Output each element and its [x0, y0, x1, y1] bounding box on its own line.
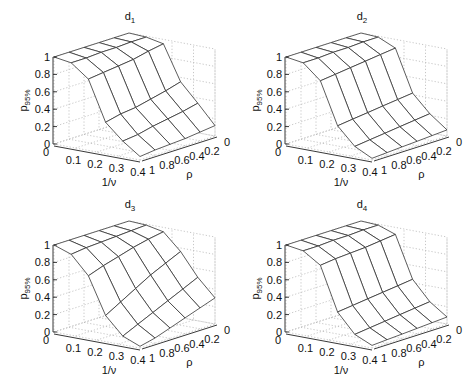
- x-axis-label: 1/ν: [334, 364, 349, 376]
- svg-text:0.4: 0.4: [267, 291, 282, 303]
- svg-text:0.2: 0.2: [436, 333, 451, 345]
- subplot-title: d2: [357, 10, 368, 25]
- z-axis-label: p95%: [249, 277, 264, 299]
- svg-text:0.2: 0.2: [319, 158, 334, 170]
- svg-text:0.2: 0.2: [267, 309, 282, 321]
- svg-text:0.8: 0.8: [391, 347, 406, 359]
- z-axis-label: p95%: [249, 89, 264, 111]
- svg-text:0.6: 0.6: [35, 86, 50, 98]
- svg-text:0: 0: [275, 334, 281, 346]
- y-axis-label: ρ: [418, 168, 424, 180]
- svg-text:0: 0: [275, 146, 281, 158]
- z-axis-label: p95%: [17, 89, 32, 111]
- surface-plot-d4: 00.20.40.60.8100.10.20.30.410.80.60.40.2…: [232, 188, 464, 376]
- svg-text:0.4: 0.4: [130, 166, 145, 178]
- svg-text:p95%: p95%: [249, 277, 264, 299]
- svg-text:0.1: 0.1: [66, 154, 81, 166]
- svg-text:1: 1: [44, 239, 50, 251]
- svg-text:0.3: 0.3: [109, 162, 124, 174]
- svg-text:0: 0: [224, 136, 230, 148]
- svg-text:0.8: 0.8: [35, 256, 50, 268]
- svg-text:0.8: 0.8: [35, 68, 50, 80]
- surface-mesh: [54, 33, 215, 157]
- svg-text:0.2: 0.2: [267, 121, 282, 133]
- svg-text:1: 1: [149, 352, 155, 364]
- svg-text:0.4: 0.4: [35, 291, 50, 303]
- svg-text:1: 1: [276, 51, 282, 63]
- svg-text:1: 1: [276, 239, 282, 251]
- subplot-d2: 00.20.40.60.8100.10.20.30.410.80.60.40.2…: [232, 0, 464, 188]
- svg-text:0.4: 0.4: [189, 150, 204, 162]
- svg-text:p95%: p95%: [17, 89, 32, 111]
- y-axis-label: ρ: [186, 168, 192, 180]
- z-axis-label: p95%: [17, 277, 32, 299]
- x-axis-label: 1/ν: [334, 176, 349, 188]
- svg-text:p95%: p95%: [249, 89, 264, 111]
- svg-text:0.2: 0.2: [319, 346, 334, 358]
- svg-text:0.2: 0.2: [35, 309, 50, 321]
- svg-text:p95%: p95%: [17, 277, 32, 299]
- subplot-title: d3: [125, 198, 136, 213]
- x-tick-labels: 00.10.20.30.4: [43, 146, 146, 178]
- surface-mesh: [286, 221, 447, 345]
- svg-text:0.3: 0.3: [109, 350, 124, 362]
- svg-text:0.1: 0.1: [298, 342, 313, 354]
- svg-text:0.8: 0.8: [159, 347, 174, 359]
- svg-text:0.2: 0.2: [436, 145, 451, 157]
- subplot-title: d1: [125, 10, 136, 25]
- svg-text:0.2: 0.2: [87, 158, 102, 170]
- svg-text:0.4: 0.4: [421, 338, 436, 350]
- svg-text:0.4: 0.4: [362, 354, 377, 366]
- subplot-d4: 00.20.40.60.8100.10.20.30.410.80.60.40.2…: [232, 188, 464, 376]
- svg-text:0.4: 0.4: [421, 150, 436, 162]
- subplot-d1: 00.20.40.60.8100.10.20.30.410.80.60.40.2…: [0, 0, 232, 188]
- svg-text:0.2: 0.2: [204, 333, 219, 345]
- surface-plot-d3: 00.20.40.60.8100.10.20.30.410.80.60.40.2…: [0, 188, 232, 376]
- svg-text:0.6: 0.6: [406, 154, 421, 166]
- svg-text:0: 0: [43, 334, 49, 346]
- svg-text:0.6: 0.6: [174, 154, 189, 166]
- svg-text:1: 1: [381, 352, 387, 364]
- svg-text:0: 0: [456, 324, 462, 336]
- surface-plot-d2: 00.20.40.60.8100.10.20.30.410.80.60.40.2…: [232, 0, 464, 188]
- svg-text:0.6: 0.6: [406, 342, 421, 354]
- y-axis-label: ρ: [186, 356, 192, 368]
- svg-text:0.8: 0.8: [391, 159, 406, 171]
- subplot-title: d4: [357, 198, 368, 213]
- svg-text:0.8: 0.8: [267, 256, 282, 268]
- svg-text:0.6: 0.6: [267, 274, 282, 286]
- subplot-d3: 00.20.40.60.8100.10.20.30.410.80.60.40.2…: [0, 188, 232, 376]
- svg-text:0.8: 0.8: [267, 68, 282, 80]
- surface-plot-d1: 00.20.40.60.8100.10.20.30.410.80.60.40.2…: [0, 0, 232, 188]
- svg-text:1: 1: [149, 164, 155, 176]
- svg-text:0.4: 0.4: [189, 338, 204, 350]
- svg-text:0.6: 0.6: [267, 86, 282, 98]
- svg-text:0.2: 0.2: [87, 346, 102, 358]
- svg-text:0.2: 0.2: [35, 121, 50, 133]
- x-axis-label: 1/ν: [102, 364, 117, 376]
- surface-mesh: [54, 221, 215, 346]
- svg-text:0.3: 0.3: [341, 162, 356, 174]
- svg-text:0.4: 0.4: [130, 354, 145, 366]
- x-axis-label: 1/ν: [102, 176, 117, 188]
- surface-mesh: [286, 33, 447, 158]
- svg-text:0: 0: [224, 324, 230, 336]
- svg-text:0: 0: [43, 146, 49, 158]
- svg-text:1: 1: [44, 51, 50, 63]
- svg-text:0.4: 0.4: [35, 103, 50, 115]
- svg-text:0.1: 0.1: [66, 342, 81, 354]
- svg-text:0.4: 0.4: [362, 166, 377, 178]
- figure: 00.20.40.60.8100.10.20.30.410.80.60.40.2…: [0, 0, 465, 377]
- svg-text:1: 1: [381, 164, 387, 176]
- svg-text:0.2: 0.2: [204, 145, 219, 157]
- y-axis-label: ρ: [418, 356, 424, 368]
- svg-text:0: 0: [456, 136, 462, 148]
- svg-text:0.3: 0.3: [341, 350, 356, 362]
- svg-text:0.6: 0.6: [35, 274, 50, 286]
- svg-text:0.1: 0.1: [298, 154, 313, 166]
- svg-text:0.4: 0.4: [267, 103, 282, 115]
- svg-text:0.6: 0.6: [174, 342, 189, 354]
- svg-text:0.8: 0.8: [159, 159, 174, 171]
